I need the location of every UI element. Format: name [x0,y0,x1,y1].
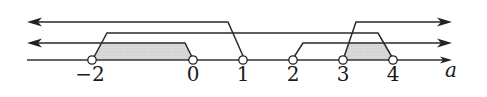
tick-label-2: 2 [287,64,300,84]
tick-label-neg2: −2 [75,64,104,84]
axis-variable-label: a [445,60,457,80]
tick-label-1: 1 [237,64,250,84]
number-line-diagram: −2 0 1 2 3 4 a [0,0,487,97]
tick-label-4: 4 [387,64,400,84]
shaded-region-neg2-to-0 [92,43,193,60]
tick-label-0: 0 [187,64,200,84]
tick-label-3: 3 [337,64,350,84]
